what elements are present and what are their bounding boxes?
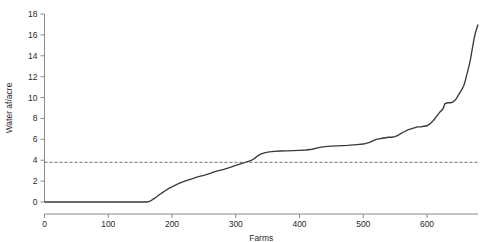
data-line — [45, 24, 479, 202]
y-axis-tick-label: 6 — [33, 134, 38, 144]
x-axis-tick-label: 500 — [356, 219, 370, 229]
x-axis: 0100200300400500600 — [42, 214, 478, 229]
y-axis-tick-label: 18 — [28, 9, 38, 19]
x-axis-tick-label: 0 — [42, 219, 47, 229]
x-axis-tick-label: 200 — [165, 219, 179, 229]
y-axis-tick-label: 12 — [28, 72, 38, 82]
y-axis-tick-label: 2 — [33, 176, 38, 186]
x-axis-tick-label: 300 — [229, 219, 243, 229]
line-chart: 024681012141618 0100200300400500600 Farm… — [0, 0, 484, 242]
y-axis-tick-label: 0 — [33, 197, 38, 207]
y-axis-tick-label: 16 — [28, 30, 38, 40]
x-axis-tick-label: 600 — [420, 219, 434, 229]
y-axis-title: Water af/acre — [4, 82, 14, 133]
y-axis-tick-label: 14 — [28, 51, 38, 61]
x-axis-tick-label: 100 — [101, 219, 115, 229]
y-axis-tick-label: 4 — [33, 155, 38, 165]
y-axis-tick-label: 8 — [33, 113, 38, 123]
chart-container: 024681012141618 0100200300400500600 Farm… — [0, 0, 484, 242]
data-series-group — [45, 24, 479, 202]
y-axis: 024681012141618 — [28, 9, 44, 207]
x-axis-tick-label: 400 — [292, 219, 306, 229]
y-axis-tick-label: 10 — [28, 93, 38, 103]
x-axis-title: Farms — [249, 233, 273, 242]
